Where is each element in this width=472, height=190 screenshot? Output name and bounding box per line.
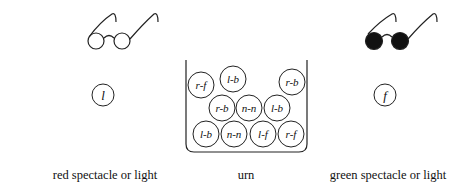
urn-diagram: l f r-fl-br-br-bn-nl-bl-bn-nl-fr-f red s… — [0, 0, 472, 190]
urn-ball: l-b — [220, 66, 246, 92]
urn-caption: urn — [238, 168, 255, 182]
urn-ball: l-b — [193, 121, 219, 147]
green-spectacle-caption: green spectacle or light — [330, 168, 447, 182]
dark-token: f — [374, 84, 396, 106]
urn-ball: n-n — [236, 95, 262, 121]
svg-text:l-b: l-b — [200, 128, 213, 140]
urn-ball: l-b — [264, 95, 290, 121]
light-token: l — [92, 84, 114, 106]
red-spectacle-icon — [88, 14, 158, 49]
urn-ball: r-b — [209, 95, 235, 121]
svg-text:n-n: n-n — [227, 128, 242, 140]
svg-text:r-b: r-b — [215, 102, 229, 114]
svg-text:n-n: n-n — [242, 102, 257, 114]
urn-ball: r-b — [279, 69, 305, 95]
urn-ball: r-f — [278, 121, 304, 147]
svg-text:r-b: r-b — [285, 76, 299, 88]
urn-balls: r-fl-br-br-bn-nl-bl-bn-nl-fr-f — [188, 66, 305, 147]
urn-ball: n-n — [221, 121, 247, 147]
red-spectacle-caption: red spectacle or light — [53, 168, 158, 182]
urn-ball: l-f — [250, 121, 276, 147]
green-spectacle-icon — [366, 14, 438, 50]
svg-text:f: f — [383, 88, 389, 103]
svg-text:l-b: l-b — [271, 102, 284, 114]
urn-ball: r-f — [188, 72, 214, 98]
svg-text:l-b: l-b — [227, 73, 240, 85]
svg-text:l: l — [101, 88, 105, 103]
